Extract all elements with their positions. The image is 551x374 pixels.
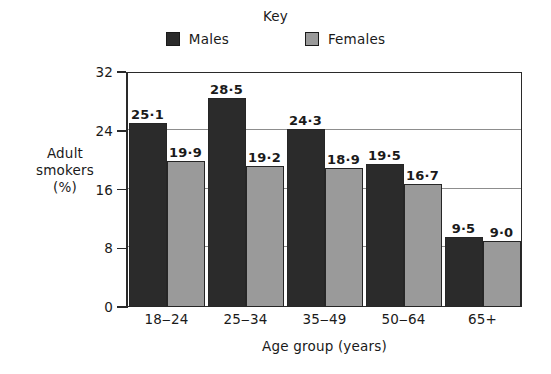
legend-label-males: Males <box>189 31 229 47</box>
x-tick-label-25‒34: 25‒34 <box>201 311 291 327</box>
bar-group: 9·59·0 <box>445 72 521 307</box>
bar-females-18‒24[interactable]: 19·9 <box>167 161 205 307</box>
x-tick-label-50‒64: 50‒64 <box>359 311 449 327</box>
bar-group: 25·119·9 <box>129 72 205 307</box>
y-tick-label-0: 0 <box>73 299 113 315</box>
y-axis-line <box>126 72 128 308</box>
y-tick-8 <box>117 248 126 250</box>
bar-females-50‒64[interactable]: 16·7 <box>404 184 442 307</box>
legend-label-females: Females <box>328 31 385 47</box>
legend-swatch-females-icon <box>305 32 319 46</box>
y-axis-title-line: smokers <box>12 162 118 179</box>
x-axis-title: Age group (years) <box>127 338 522 354</box>
y-axis-title: Adultsmokers(%) <box>12 145 118 196</box>
y-tick-label-24: 24 <box>73 123 113 139</box>
legend-item-females: Females <box>305 31 385 47</box>
bar-value-label: 19·5 <box>368 148 401 163</box>
bar-value-label: 19·9 <box>169 145 202 160</box>
bar-males-35‒49[interactable]: 24·3 <box>287 129 325 307</box>
bar-group: 19·516·7 <box>366 72 442 307</box>
bar-females-25‒34[interactable]: 19·2 <box>246 166 284 307</box>
bar-value-label: 19·2 <box>248 150 281 165</box>
bar-value-label: 9·0 <box>490 225 514 240</box>
bar-females-35‒49[interactable]: 18·9 <box>325 168 363 307</box>
y-axis-title-line: (%) <box>12 179 118 196</box>
bar-value-label: 16·7 <box>406 168 439 183</box>
bar-males-50‒64[interactable]: 19·5 <box>366 164 404 307</box>
bar-males-25‒34[interactable]: 28·5 <box>208 98 246 307</box>
y-tick-label-8: 8 <box>73 240 113 256</box>
y-axis-title-line: Adult <box>12 145 118 162</box>
bar-value-label: 18·9 <box>327 152 360 167</box>
bar-value-label: 25·1 <box>131 107 164 122</box>
bar-value-label: 24·3 <box>289 113 322 128</box>
y-tick-32 <box>117 71 126 73</box>
legend-swatch-males-icon <box>166 32 180 46</box>
legend-item-males: Males <box>166 31 229 47</box>
bars-layer: 25·119·928·519·224·318·919·516·79·59·0 <box>127 72 522 307</box>
bar-males-18‒24[interactable]: 25·1 <box>129 123 167 307</box>
bar-value-label: 9·5 <box>452 221 476 236</box>
y-tick-24 <box>117 130 126 132</box>
y-tick-0 <box>117 306 126 308</box>
bar-males-65+[interactable]: 9·5 <box>445 237 483 307</box>
x-tick-label-65+: 65+ <box>438 311 528 327</box>
bar-group: 24·318·9 <box>287 72 363 307</box>
y-tick-label-32: 32 <box>73 64 113 80</box>
bar-females-65+[interactable]: 9·0 <box>483 241 521 307</box>
y-tick-16 <box>117 189 126 191</box>
bar-group: 28·519·2 <box>208 72 284 307</box>
x-tick-label-35‒49: 35‒49 <box>280 311 370 327</box>
bar-value-label: 28·5 <box>210 82 243 97</box>
x-tick-label-18‒24: 18‒24 <box>122 311 212 327</box>
x-axis-tick-labels: 18‒2425‒3435‒4950‒6465+ <box>127 311 522 331</box>
